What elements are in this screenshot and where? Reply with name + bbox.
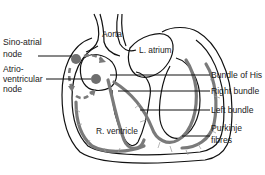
left-ventricle-outline	[159, 58, 200, 138]
label-aorta: Aorta	[102, 29, 122, 39]
label-purkinje-1: Purkinje	[211, 123, 242, 133]
label-right-bundle: Right bundle	[211, 86, 259, 96]
label-left-bundle: Left bundle	[211, 105, 254, 115]
atrioventricular-node	[91, 74, 101, 84]
label-bundle-of-his: Bundle of His	[211, 70, 262, 80]
heart-conduction-diagram: Sino-atrial node Atrio- ventricular node…	[0, 0, 265, 175]
label-purkinje-2: fibres	[211, 135, 232, 145]
sino-atrial-node	[71, 54, 81, 64]
label-av-node-2: ventricular	[3, 74, 43, 84]
impulse-arrow-left	[69, 68, 72, 88]
heart-inner-wall	[72, 40, 224, 155]
impulse-arrow-top	[84, 55, 102, 60]
label-av-node-3: node	[3, 84, 22, 94]
aorta-inner-wall-2	[122, 14, 126, 46]
impulse-arrowhead-left	[68, 86, 75, 92]
impulse-arrow-bottom	[76, 92, 92, 98]
label-l-atrium: L. atrium	[139, 45, 172, 55]
label-av-node-1: Atrio-	[3, 64, 24, 74]
label-r-ventricle: R. ventricle	[96, 126, 138, 136]
label-sa-node-1: Sino-atrial	[3, 37, 42, 47]
label-sa-node-2: node	[3, 49, 22, 59]
right-atrium-outline	[80, 55, 116, 91]
left-atrium-outline	[128, 34, 173, 78]
